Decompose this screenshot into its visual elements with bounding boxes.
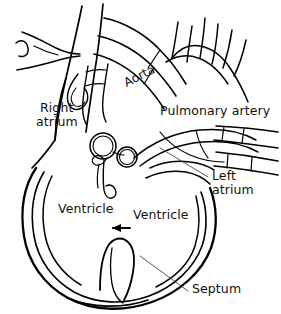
septum-shape — [100, 239, 134, 303]
label-ventricle-left: Ventricle — [58, 202, 114, 216]
valve-region — [90, 133, 137, 167]
ventricle-arrow — [112, 224, 130, 232]
label-ventricle-right: Ventricle — [133, 208, 189, 222]
superior-vessels-left-group — [16, 32, 80, 70]
label-pulmonary-artery: Pulmonary artery — [160, 104, 270, 118]
leader-line-septum — [140, 256, 188, 291]
label-septum: Septum — [192, 282, 241, 296]
pulmonary-artery-body — [134, 129, 258, 166]
septal-strand — [97, 160, 116, 198]
label-left-atrium-line2: atrium — [212, 183, 254, 197]
label-right-atrium-line2: atrium — [36, 115, 78, 129]
ventricle-outline-inner — [32, 172, 206, 302]
label-left-atrium-line1: Left — [212, 169, 236, 183]
label-right-atrium-line1: Right — [40, 101, 73, 115]
pulmonary-artery-tree — [166, 18, 248, 102]
heart-diagram: Aorta Right atrium Pulmonary artery Left… — [0, 0, 281, 314]
left-atrium-wall — [146, 161, 214, 184]
heart-illustration — [0, 0, 281, 314]
